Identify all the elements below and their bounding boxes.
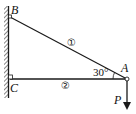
label-a: A [120,61,129,75]
angle-arc [113,72,115,79]
pin-a [125,77,129,81]
load-arrow [123,79,131,110]
label-member-2: ② [61,80,70,91]
member-1 [10,17,127,79]
label-load: P [113,93,122,107]
label-c: C [10,81,19,95]
pin-c [9,75,13,79]
wall-support [4,6,9,98]
truss-diagram: B C A ① ② 30° P [0,0,136,114]
label-angle: 30° [93,66,108,78]
label-member-1: ① [67,37,76,48]
label-b: B [11,3,19,17]
